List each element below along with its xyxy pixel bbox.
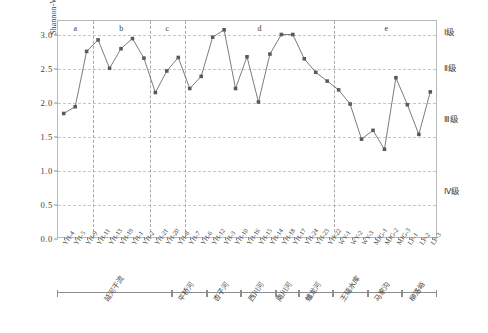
y-tick-label: 1.5 <box>40 133 53 142</box>
reach-bar-cap <box>436 290 437 297</box>
data-point-marker <box>245 55 249 59</box>
data-point-marker <box>62 112 66 116</box>
quality-level-label: Ⅲ级 <box>444 112 458 124</box>
data-point-marker <box>119 47 123 51</box>
data-point-marker <box>383 147 387 151</box>
reach-bar-cap <box>207 290 208 297</box>
reach-bar-cap <box>299 290 300 297</box>
data-point-marker <box>360 137 364 141</box>
quality-level-label: Ⅳ级 <box>444 184 459 196</box>
data-point-marker <box>176 56 180 60</box>
data-point-marker <box>348 102 352 106</box>
data-point-marker <box>394 76 398 80</box>
data-point-marker <box>85 50 89 54</box>
reach-bar-cap <box>333 290 334 297</box>
data-point-marker <box>314 71 318 75</box>
y-tick-label: 2.0 <box>40 98 53 107</box>
data-point-marker <box>406 103 410 107</box>
y-tick-label: 0.5 <box>40 201 53 210</box>
data-point-marker <box>417 133 421 137</box>
data-point-marker <box>291 33 295 37</box>
data-point-marker <box>96 38 100 42</box>
data-point-marker <box>154 91 158 95</box>
reach-label: 王瑶水库 <box>337 274 361 303</box>
y-tick-label: 1.0 <box>40 167 53 176</box>
plot-area: Shannon-Wiener多样性指数 0.00.51.01.52.02.53.… <box>57 20 437 238</box>
data-point-marker <box>371 129 375 133</box>
y-tick-mark <box>54 239 58 240</box>
series-polyline <box>64 30 431 149</box>
data-point-marker <box>108 66 112 70</box>
data-point-marker <box>268 52 272 56</box>
data-point-marker <box>211 35 215 39</box>
quality-level-label: Ⅱ级 <box>444 61 456 73</box>
data-point-marker <box>337 88 341 92</box>
y-tick-label: 2.5 <box>40 64 53 73</box>
data-point-marker <box>325 79 329 83</box>
data-series-line <box>58 21 436 237</box>
data-point-marker <box>131 37 135 41</box>
reach-bar-cap <box>368 290 369 297</box>
data-point-marker <box>280 33 284 37</box>
data-point-marker <box>302 57 306 61</box>
y-tick-label: 0.0 <box>40 235 53 244</box>
data-point-marker <box>199 75 203 79</box>
reach-label: 延河干流 <box>101 274 125 303</box>
data-point-marker <box>428 90 432 94</box>
y-tick-label: 3.0 <box>40 30 53 39</box>
reach-bar-cap <box>402 290 403 297</box>
data-point-marker <box>234 87 238 91</box>
shannon-wiener-diversity-chart: Shannon-Wiener多样性指数 0.00.51.01.52.02.53.… <box>0 0 488 333</box>
reach-bar-cap <box>241 290 242 297</box>
data-point-marker <box>222 28 226 32</box>
data-point-marker <box>188 87 192 91</box>
data-point-marker <box>257 100 261 104</box>
data-point-marker <box>165 69 169 73</box>
quality-level-label: Ⅰ级 <box>444 25 454 37</box>
reach-bar-cap <box>172 290 173 297</box>
data-point-marker <box>73 105 77 109</box>
data-point-marker <box>142 56 146 60</box>
reach-bar-cap <box>57 290 58 297</box>
